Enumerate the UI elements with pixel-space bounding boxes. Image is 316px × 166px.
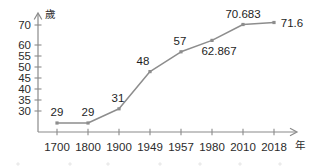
data-label-1700: 29 [51, 106, 64, 118]
data-label-2018: 71.6 [281, 17, 303, 29]
x-tick-label-1980: 1980 [199, 141, 225, 153]
data-point-2010 [241, 23, 244, 26]
data-point-1700 [55, 121, 58, 124]
data-point-labels: 29 29 31 48 57 62.867 70.683 71.6 [51, 8, 304, 118]
data-point-1949 [148, 70, 151, 73]
data-point-1980 [210, 39, 213, 42]
data-label-1900: 31 [112, 92, 125, 104]
x-tick-label-1700: 1700 [44, 141, 70, 153]
y-tick-label-30: 30 [18, 105, 31, 117]
y-axis-title: 歲 [45, 8, 55, 20]
chart-canvas: 70 60 55 50 45 40 35 30 歲 1700 1800 1900 [0, 0, 316, 166]
x-tick-label-1949: 1949 [137, 141, 163, 153]
data-point-1900 [117, 107, 120, 110]
y-axis: 70 60 55 50 45 40 35 30 歲 [18, 8, 55, 132]
x-tick-label-2018: 2018 [261, 141, 287, 153]
x-tick-label-1957: 1957 [168, 141, 194, 153]
data-point-1800 [86, 121, 89, 124]
x-tick-label-2010: 2010 [230, 141, 256, 153]
y-tick-label-70: 70 [18, 19, 31, 31]
line-chart: 70 60 55 50 45 40 35 30 歲 1700 1800 1900 [0, 0, 316, 166]
data-label-1957: 57 [174, 35, 187, 47]
data-label-1949: 48 [137, 55, 150, 67]
x-tick-label-1900: 1900 [106, 141, 132, 153]
data-point-2018 [272, 21, 275, 24]
data-label-1980: 62.867 [201, 45, 236, 57]
data-point-1957 [179, 50, 182, 53]
x-tick-label-1800: 1800 [75, 141, 101, 153]
data-label-1800: 29 [82, 106, 95, 118]
data-label-2010: 70.683 [225, 8, 260, 20]
x-axis-title: 年 [295, 139, 305, 151]
x-axis: 1700 1800 1900 1949 1957 1980 2010 2018 … [38, 128, 305, 153]
